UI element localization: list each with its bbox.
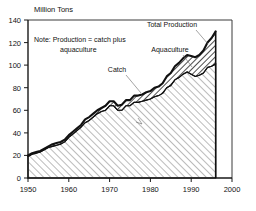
y-axis-title: Million Tons	[34, 5, 73, 14]
x-tick-label: 1990	[183, 185, 200, 194]
y-axis-tick-labels: 0 20 40 60 80 100 120 140	[8, 16, 21, 183]
y-tick-label: 60	[13, 106, 21, 115]
catch-label: Catch	[108, 66, 126, 73]
total-production-leader	[196, 30, 208, 44]
chart-svg: 0 20 40 60 80 100 120 140 Million Tons 1…	[0, 0, 256, 211]
aquaculture-label: Aquaculture	[151, 46, 188, 54]
x-tick-label: 2000	[224, 185, 241, 194]
total-production-label: Total Production	[147, 21, 197, 28]
x-tick-label: 1970	[101, 185, 118, 194]
x-tick-label: 1980	[142, 185, 159, 194]
catch-area	[28, 64, 216, 178]
y-tick-label: 100	[8, 61, 21, 70]
y-tick-label: 140	[8, 16, 21, 25]
plot-data-layer	[28, 31, 216, 178]
y-tick-label: 0	[17, 174, 21, 183]
y-tick-label: 40	[13, 129, 21, 138]
x-axis-tick-labels: 1950 1960 1970 1980 1990 2000	[20, 185, 241, 194]
y-tick-label: 120	[8, 39, 21, 48]
y-tick-label: 20	[13, 151, 21, 160]
catch-leader	[126, 75, 141, 93]
x-tick-label: 1950	[20, 185, 37, 194]
y-tick-label: 80	[13, 84, 21, 93]
note-line-2: aquaculture	[60, 46, 97, 54]
fish-production-chart: 0 20 40 60 80 100 120 140 Million Tons 1…	[0, 0, 256, 211]
x-tick-label: 1960	[60, 185, 77, 194]
note-line-1: Note: Production = catch plus	[34, 36, 126, 44]
